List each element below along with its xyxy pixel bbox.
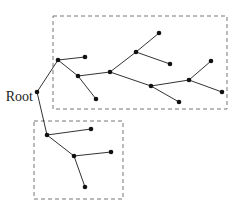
node-b1 [94, 97, 99, 102]
node-a [56, 58, 61, 63]
upper-subtree-box [53, 16, 227, 109]
node-e [149, 84, 154, 89]
edge-b-b1 [78, 76, 96, 99]
lower-subtree-box [34, 121, 123, 199]
node-f [187, 78, 192, 83]
edge-d-d1 [136, 33, 159, 52]
edge-e-e1 [151, 86, 179, 102]
edge-f-f1 [189, 61, 211, 80]
root-label: Root [6, 89, 33, 104]
edge-f-f2 [189, 80, 222, 92]
node-f1 [209, 59, 214, 64]
node-h [72, 154, 77, 159]
edge-a-b [58, 60, 78, 76]
subtree-clusters [34, 16, 227, 199]
node-d2 [168, 62, 173, 67]
edge-c-e [110, 72, 151, 86]
tree-edges [37, 33, 222, 187]
edge-root-a [37, 60, 58, 92]
edge-h-h1 [74, 152, 111, 156]
edge-g-h [47, 135, 74, 156]
node-a1 [83, 55, 88, 60]
node-d [134, 50, 139, 55]
node-h2 [83, 185, 88, 190]
node-c [108, 70, 113, 75]
edge-c-d [110, 52, 136, 72]
node-root [35, 90, 40, 95]
node-h1 [109, 150, 114, 155]
node-f2 [220, 90, 225, 95]
node-e1 [177, 100, 182, 105]
edge-d-d2 [136, 52, 170, 64]
node-d1 [157, 31, 162, 36]
edge-a-a1 [58, 57, 85, 60]
edge-g-g1 [47, 129, 91, 135]
edge-root-g [37, 92, 47, 135]
edge-h-h2 [74, 156, 85, 187]
edge-e-f [151, 80, 189, 86]
node-b [76, 74, 81, 79]
edge-b-c [78, 72, 110, 76]
tree-nodes [35, 31, 225, 190]
node-g1 [89, 127, 94, 132]
tree-diagram: Root [0, 0, 238, 214]
node-g [45, 133, 50, 138]
